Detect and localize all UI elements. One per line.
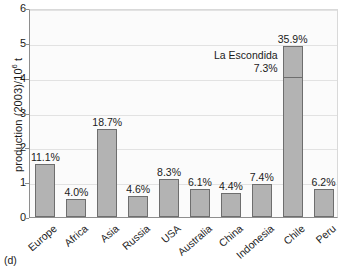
annotation-line-2: 7.3%: [214, 62, 278, 75]
bar: [97, 129, 117, 217]
bar-data-label: 4.6%: [113, 183, 163, 195]
bar-annotation: La Escondida7.3%: [214, 49, 278, 75]
bar-data-label: 18.7%: [82, 116, 132, 128]
y-axis-tick-label: 2: [0, 141, 26, 153]
x-axis-tick-label-text: Peru: [313, 222, 338, 246]
panel-tag: (d): [4, 254, 17, 266]
y-axis-tick-label: 3: [0, 107, 26, 119]
y-axis-tick-label: 5: [0, 37, 26, 49]
figure-panel-d: production (2003)/106 t 11.1%4.0%18.7%4.…: [0, 0, 342, 276]
x-axis-tick-label-text: Europe: [26, 222, 59, 253]
bar-data-label: 11.1%: [20, 151, 70, 163]
y-axis-tick-label: 1: [0, 176, 26, 188]
y-axis-tick-mark: [25, 148, 29, 149]
y-axis-label-post: t: [12, 58, 24, 64]
x-axis-tick-label-text: Chile: [281, 222, 307, 247]
bar-data-label: 6.2%: [299, 176, 342, 188]
x-axis-tick-label-text: Asia: [98, 222, 121, 244]
y-axis-label-exponent: 6: [10, 64, 19, 68]
gridline: [30, 10, 337, 11]
y-axis-tick-mark: [25, 218, 29, 219]
plot-area: 11.1%4.0%18.7%4.6%8.3%6.1%4.4%7.4%35.9%6…: [29, 9, 338, 218]
y-axis-tick-label: 0: [0, 211, 26, 223]
bar: [283, 46, 303, 217]
bar-data-label: 7.4%: [237, 171, 287, 183]
bar-data-label: 35.9%: [268, 33, 318, 45]
annotation-line-1: La Escondida: [214, 49, 278, 62]
y-axis-tick-mark: [25, 44, 29, 45]
y-axis-tick-mark: [25, 183, 29, 184]
y-axis-tick-label: 4: [0, 72, 26, 84]
x-axis-tick-label-text: USA: [159, 222, 183, 245]
x-axis-tick-label-text: Africa: [62, 222, 90, 249]
y-axis-tick-mark: [25, 9, 29, 10]
bar-segment-divider: [283, 77, 303, 78]
y-axis-tick-label: 6: [0, 2, 26, 14]
y-axis-tick-mark: [25, 114, 29, 115]
bar-data-label: 4.0%: [51, 186, 101, 198]
y-axis-tick-mark: [25, 79, 29, 80]
